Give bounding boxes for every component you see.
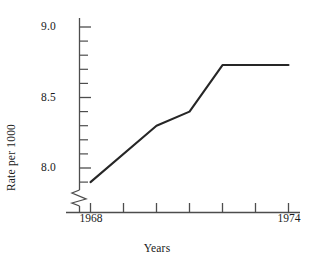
x-axis-ticks: [91, 203, 289, 213]
y-minor-ticks: [80, 41, 89, 182]
x-axis-title-text: Years: [144, 242, 171, 254]
y-axis-break-icon: [72, 190, 86, 206]
data-series-line: [91, 65, 289, 182]
y-major-ticks: [80, 27, 92, 168]
y-tick-label-8-5: 8.5: [41, 92, 56, 104]
y-tick-label-8-0: 8.0: [41, 162, 56, 174]
line-chart-figure: 9.0 8.5 8.0 1968 1974 Rate per 1000 Year…: [0, 0, 314, 267]
x-tick-label-1968: 1968: [80, 212, 103, 224]
x-axis-title: Years: [0, 242, 314, 254]
y-tick-label-9-0: 9.0: [41, 21, 56, 33]
chart-plot-area: [0, 0, 314, 267]
x-tick-label-1974: 1974: [278, 212, 301, 224]
